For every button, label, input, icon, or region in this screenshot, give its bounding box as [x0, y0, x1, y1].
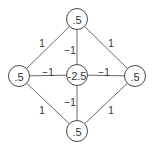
nodes: .5.5-2.5.5.5	[9, 9, 146, 142]
edge-weight-label: 1	[39, 105, 45, 116]
edge-weight-label: 1	[39, 38, 45, 49]
edge-weight-label: −1	[64, 45, 76, 56]
node-value-label: .5	[14, 71, 23, 83]
node-value-label: .5	[72, 126, 81, 138]
edge-weight-label: −1	[64, 97, 76, 108]
node-left: .5	[9, 66, 30, 87]
graph-diagram: 11−1−1−1−111 .5.5-2.5.5.5	[0, 0, 153, 148]
edge-weight-label: −1	[98, 67, 110, 78]
node-value-label: -2.5	[68, 70, 87, 82]
node-value-label: .5	[72, 14, 81, 26]
node-center: -2.5	[67, 65, 88, 86]
edge-right-bottom	[77, 76, 135, 131]
node-bottom: .5	[67, 121, 88, 142]
node-value-label: .5	[130, 71, 139, 83]
node-right: .5	[125, 66, 146, 87]
edge-weight-label: 1	[108, 105, 114, 116]
node-top: .5	[67, 9, 88, 30]
edge-weight-label: 1	[108, 38, 114, 49]
edge-weight-label: −1	[42, 67, 54, 78]
